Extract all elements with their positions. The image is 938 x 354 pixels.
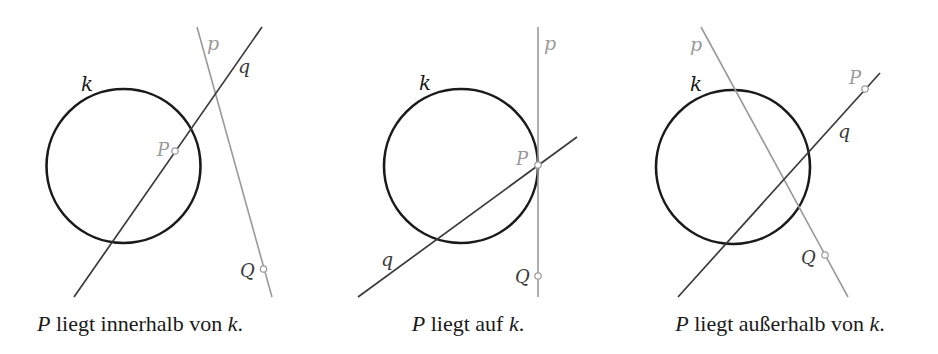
label-q: q: [381, 248, 393, 270]
label-P: P: [848, 67, 862, 88]
label-p: p: [207, 32, 219, 54]
diagram-canvas: k p q P Q P liegt innerhalb von k. k p q…: [0, 0, 938, 354]
caption-inside: P liegt innerhalb von k.: [36, 311, 243, 336]
label-p: p: [544, 32, 556, 54]
label-P: P: [515, 148, 529, 169]
label-Q: Q: [515, 266, 530, 287]
label-q: q: [238, 55, 250, 77]
label-Q: Q: [801, 247, 816, 268]
point-Q: [260, 266, 266, 272]
circle-k: [47, 89, 201, 243]
caption-on: P liegt auf k.: [411, 311, 524, 336]
label-k: k: [81, 72, 93, 96]
line-q: [358, 137, 577, 297]
circle-k: [656, 90, 810, 244]
panel-inside: k p q P Q P liegt innerhalb von k.: [36, 27, 272, 336]
point-P: [172, 148, 178, 154]
label-k: k: [690, 72, 702, 96]
point-Q: [535, 273, 541, 279]
point-Q: [822, 252, 828, 258]
label-P: P: [156, 139, 170, 160]
label-k: k: [419, 71, 431, 95]
point-P: [535, 162, 541, 168]
label-Q: Q: [240, 260, 255, 281]
label-p: p: [690, 33, 702, 55]
circle-k: [384, 89, 538, 243]
point-P: [862, 86, 868, 92]
label-q: q: [838, 120, 850, 142]
panel-outside: k p q P Q P liegt außerhalb von k.: [656, 27, 885, 336]
panel-on: k p q P Q P liegt auf k.: [358, 27, 577, 336]
caption-outside: P liegt außerhalb von k.: [674, 311, 885, 336]
